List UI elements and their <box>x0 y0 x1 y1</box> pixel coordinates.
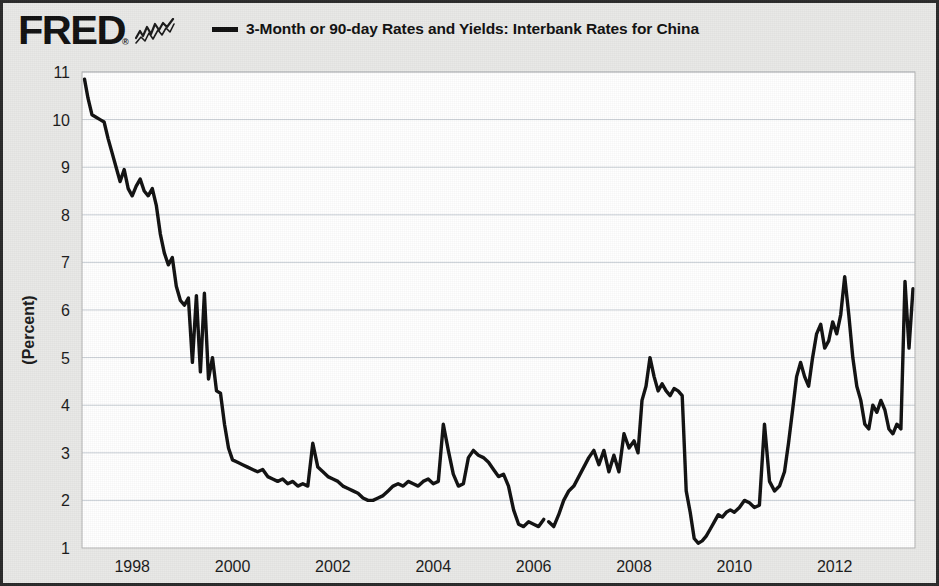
chart-header: FRED ® 3-Month or 90-day Rates and Yield… <box>0 0 939 60</box>
y-axis-tick-label: 8 <box>61 207 70 224</box>
y-axis-tick-label: 5 <box>61 350 70 367</box>
chart-area: 1234567891011 19982000200220042006200820… <box>0 0 939 586</box>
fred-wordmark: FRED <box>18 10 125 50</box>
y-axis-tick-label: 10 <box>52 112 70 129</box>
y-axis-tick-label: 6 <box>61 302 70 319</box>
y-axis-tick-labels: 1234567891011 <box>52 64 70 557</box>
x-axis-tick-label: 1998 <box>114 558 150 575</box>
y-axis-title: (Percent) <box>20 295 37 364</box>
fred-chart-screenshot: FRED ® 3-Month or 90-day Rates and Yield… <box>0 0 939 586</box>
chart-legend: 3-Month or 90-day Rates and Yields: Inte… <box>212 20 699 38</box>
fred-logo: FRED ® <box>18 10 175 50</box>
y-axis-tick-label: 1 <box>61 540 70 557</box>
y-axis-tick-label: 9 <box>61 159 70 176</box>
y-axis-tick-label: 2 <box>61 492 70 509</box>
x-axis-tick-label: 2002 <box>315 558 351 575</box>
x-axis-tick-label: 2012 <box>817 558 853 575</box>
legend-series-label: 3-Month or 90-day Rates and Yields: Inte… <box>246 20 699 38</box>
x-axis-tick-labels: 19982000200220042006200820102012 <box>114 558 852 575</box>
sparkline-icon <box>135 18 175 48</box>
legend-color-swatch <box>212 27 238 32</box>
x-axis-tick-label: 2006 <box>516 558 552 575</box>
x-axis-tick-label: 2004 <box>415 558 451 575</box>
y-axis-tick-label: 7 <box>61 254 70 271</box>
y-axis-tick-label: 3 <box>61 445 70 462</box>
y-axis-tick-label: 4 <box>61 397 70 414</box>
y-axis-tick-label: 11 <box>53 64 70 81</box>
x-axis-tick-label: 2000 <box>215 558 251 575</box>
x-axis-tick-label: 2010 <box>717 558 753 575</box>
x-axis-tick-label: 2008 <box>616 558 652 575</box>
chart-svg: 1234567891011 19982000200220042006200820… <box>0 0 939 586</box>
